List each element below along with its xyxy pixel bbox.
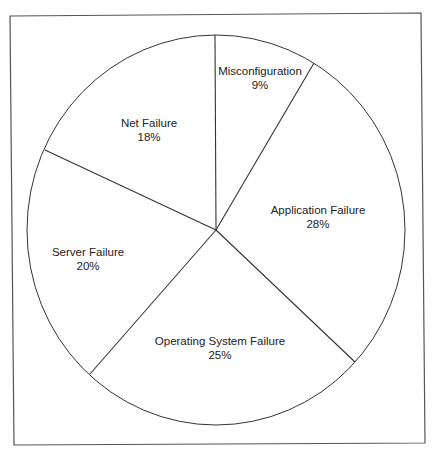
slice-name: Server Failure: [52, 245, 124, 259]
divider-server-net: [45, 150, 216, 230]
slice-name: Net Failure: [121, 116, 177, 130]
slice-percent: 18%: [121, 130, 177, 144]
slice-percent: 25%: [155, 348, 285, 362]
slice-label-operating-system-failure: Operating System Failure 25%: [155, 334, 285, 362]
slice-name: Operating System Failure: [155, 334, 285, 348]
slice-name: Application Failure: [271, 203, 366, 217]
slice-percent: 28%: [271, 217, 366, 231]
slice-label-misconfiguration: Misconfiguration 9%: [218, 64, 302, 92]
slice-label-server-failure: Server Failure 20%: [52, 245, 124, 273]
slice-label-application-failure: Application Failure 28%: [271, 203, 366, 231]
slice-percent: 20%: [52, 259, 124, 273]
slice-percent: 9%: [218, 78, 302, 92]
divider-net-misc: [215, 35, 216, 230]
slice-label-net-failure: Net Failure 18%: [121, 116, 177, 144]
slice-name: Misconfiguration: [218, 64, 302, 78]
